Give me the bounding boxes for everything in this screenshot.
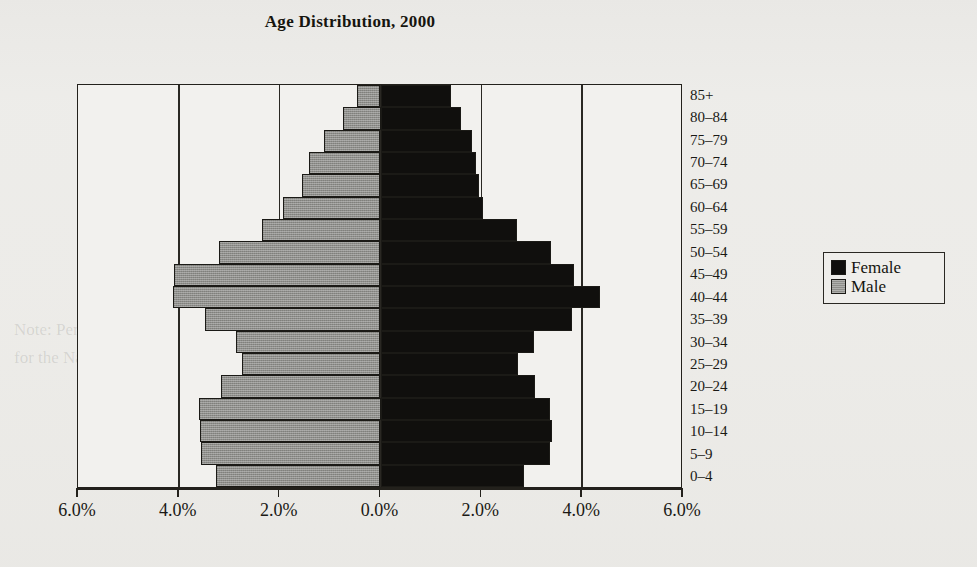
age-group-label: 70–74 — [690, 151, 760, 173]
bar-female-35–39 — [381, 308, 572, 330]
bar-row — [78, 375, 681, 397]
age-group-axis: 85+80–8475–7970–7465–6960–6455–5950–5445… — [690, 84, 760, 488]
bar-row — [78, 219, 681, 241]
bar-row — [78, 152, 681, 174]
x-tick — [379, 488, 381, 497]
age-group-label: 30–34 — [690, 331, 760, 353]
bar-male-40–44 — [173, 286, 380, 308]
x-tick-label: 0.0% — [361, 500, 399, 521]
population-pyramid-chart: Age Distribution, 2000 85+80–8475–7970–7… — [0, 0, 977, 567]
bar-male-15–19 — [199, 398, 381, 420]
bar-male-60–64 — [283, 197, 380, 219]
bar-row — [78, 420, 681, 442]
age-group-label: 65–69 — [690, 174, 760, 196]
bar-male-85+ — [357, 85, 381, 107]
x-axis-labels: 6.0%4.0%2.0%0.0%2.0%4.0%6.0% — [0, 500, 977, 528]
bar-male-0–4 — [216, 465, 380, 487]
bar-row — [78, 331, 681, 353]
x-tick-label: 4.0% — [159, 500, 197, 521]
x-tick — [278, 488, 280, 497]
age-group-label: 75–79 — [690, 129, 760, 151]
bar-male-65–69 — [302, 174, 381, 196]
age-group-label: 85+ — [690, 84, 760, 106]
age-group-label: 45–49 — [690, 264, 760, 286]
bar-female-20–24 — [381, 375, 535, 397]
age-group-label: 10–14 — [690, 421, 760, 443]
bar-row — [78, 85, 681, 107]
bar-row — [78, 264, 681, 286]
bar-female-55–59 — [381, 219, 517, 241]
chart-legend: Female Male — [823, 252, 945, 304]
x-tick-label: 2.0% — [462, 500, 500, 521]
bar-row — [78, 308, 681, 330]
bar-row — [78, 442, 681, 464]
bar-rows — [78, 85, 681, 487]
age-group-label: 50–54 — [690, 241, 760, 263]
bar-row — [78, 353, 681, 375]
age-group-label: 25–29 — [690, 353, 760, 375]
age-group-label: 80–84 — [690, 106, 760, 128]
bar-male-35–39 — [205, 308, 381, 330]
bar-male-25–29 — [242, 353, 380, 375]
bar-female-50–54 — [381, 241, 551, 263]
x-tick — [480, 488, 482, 497]
bar-female-85+ — [381, 85, 451, 107]
bar-male-45–49 — [174, 264, 380, 286]
x-tick-label: 4.0% — [562, 500, 600, 521]
bar-row — [78, 286, 681, 308]
legend-item-male: Male — [831, 278, 937, 296]
bar-row — [78, 130, 681, 152]
bar-male-5–9 — [201, 442, 380, 464]
x-tick-label: 2.0% — [260, 500, 298, 521]
age-group-label: 60–64 — [690, 196, 760, 218]
age-group-label: 15–19 — [690, 398, 760, 420]
bar-male-30–34 — [236, 331, 381, 353]
bar-female-10–14 — [381, 420, 553, 442]
bar-row — [78, 107, 681, 129]
legend-label-female: Female — [851, 259, 901, 277]
bar-male-10–14 — [200, 420, 380, 442]
age-group-label: 5–9 — [690, 443, 760, 465]
legend-swatch-female-icon — [831, 260, 846, 275]
chart-title: Age Distribution, 2000 — [0, 12, 700, 32]
bar-female-5–9 — [381, 442, 550, 464]
bar-male-75–79 — [324, 130, 381, 152]
bar-female-80–84 — [381, 107, 462, 129]
age-group-label: 0–4 — [690, 465, 760, 487]
bar-female-75–79 — [381, 130, 473, 152]
age-group-label: 40–44 — [690, 286, 760, 308]
age-group-label: 35–39 — [690, 308, 760, 330]
x-tick-label: 6.0% — [663, 500, 701, 521]
bar-female-0–4 — [381, 465, 525, 487]
bar-male-70–74 — [309, 152, 380, 174]
bar-male-50–54 — [219, 241, 381, 263]
bar-row — [78, 465, 681, 487]
x-tick — [76, 488, 78, 497]
bar-female-30–34 — [381, 331, 534, 353]
bar-male-55–59 — [262, 219, 380, 241]
legend-item-female: Female — [831, 259, 937, 277]
bar-female-15–19 — [381, 398, 550, 420]
bar-row — [78, 398, 681, 420]
plot-area — [77, 84, 682, 488]
legend-swatch-male-icon — [831, 279, 846, 294]
bar-row — [78, 241, 681, 263]
bar-male-80–84 — [343, 107, 381, 129]
bar-row — [78, 174, 681, 196]
bar-female-25–29 — [381, 353, 518, 375]
age-group-label: 20–24 — [690, 376, 760, 398]
age-group-label: 55–59 — [690, 219, 760, 241]
bar-row — [78, 197, 681, 219]
bar-female-40–44 — [381, 286, 600, 308]
x-tick — [580, 488, 582, 497]
x-tick — [681, 488, 683, 497]
bar-male-20–24 — [221, 375, 381, 397]
bar-female-70–74 — [381, 152, 476, 174]
legend-label-male: Male — [851, 278, 886, 296]
bar-female-65–69 — [381, 174, 479, 196]
bar-female-60–64 — [381, 197, 484, 219]
bar-female-45–49 — [381, 264, 574, 286]
x-tick-label: 6.0% — [58, 500, 96, 521]
x-tick — [177, 488, 179, 497]
